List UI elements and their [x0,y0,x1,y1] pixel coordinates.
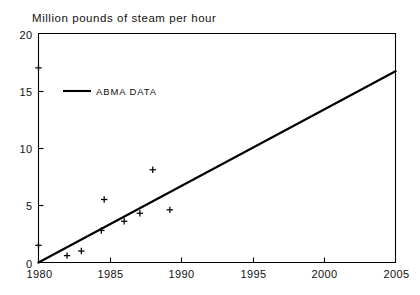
x-tick-label-2000: 2000 [311,268,337,280]
x-tick-label-2005: 2005 [383,268,409,280]
scatter-point [64,252,70,258]
x-axis-ticks [111,258,325,263]
y-tick-label-15: 15 [19,86,32,98]
y-axis-ticks [39,92,44,206]
scatter-point [121,218,127,224]
chart-plot-area: 05101520 198019851990199520002005 ABMA D… [0,0,420,295]
axes [39,34,396,263]
y-axis-tick-labels: 05101520 [19,29,32,270]
x-tick-label-1990: 1990 [168,268,194,280]
y-tick-label-10: 10 [19,143,32,155]
y-tick-label-5: 5 [26,200,33,212]
scatter-point [137,210,143,216]
scatter-point [35,242,41,248]
scatter-point [35,65,41,71]
y-tick-label-20: 20 [19,29,32,41]
trend-line-series [39,71,396,262]
legend-label: ABMA DATA [96,86,157,97]
x-tick-label-1980: 1980 [26,268,52,280]
x-tick-label-1985: 1985 [97,268,123,280]
scatter-point [150,167,156,173]
scatter-point [78,248,84,254]
scatter-point [167,207,173,213]
chart-figure: Million pounds of steam per hour 0510152… [0,0,420,295]
x-tick-label-1995: 1995 [240,268,266,280]
plot-frame [39,34,396,263]
chart-title: Million pounds of steam per hour [32,12,216,24]
scatter-point [101,196,107,202]
x-axis-tick-labels: 198019851990199520002005 [26,268,409,280]
chart-legend: ABMA DATA [63,86,157,97]
trend-line [39,71,396,262]
